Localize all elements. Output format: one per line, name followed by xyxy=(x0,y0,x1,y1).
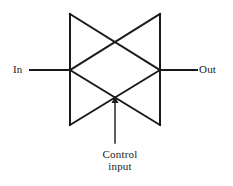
input-label: In xyxy=(13,63,23,75)
control-input-label-line2: input xyxy=(90,160,150,172)
diagram-canvas: In Out Control input xyxy=(0,0,233,186)
control-input-label-line1: Control xyxy=(90,148,150,160)
control-input-label: Control input xyxy=(90,148,150,172)
output-label: Out xyxy=(199,63,216,75)
